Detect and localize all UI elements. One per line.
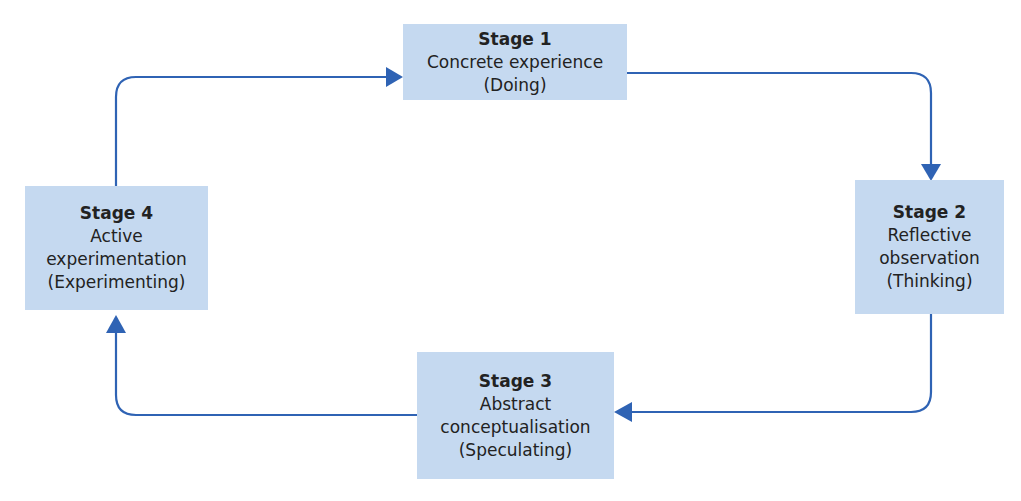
arrow-stage3-to-stage4 — [116, 330, 417, 415]
stage-3-name-line2: conceptualisation — [440, 416, 590, 439]
arrowhead-stage1 — [386, 67, 403, 87]
stage-2-name-line1: Reflective — [888, 224, 972, 247]
stage-2-activity: (Thinking) — [886, 270, 972, 293]
stage-4-title: Stage 4 — [80, 202, 153, 225]
stage-1-activity: (Doing) — [483, 74, 546, 97]
stage-4-name-line1: Active — [90, 225, 143, 248]
arrow-stage4-to-stage1 — [116, 77, 390, 186]
arrow-stage2-to-stage3 — [628, 314, 931, 412]
stage-4-name-line2: experimentation — [46, 248, 187, 271]
stage-4-box: Stage 4 Active experimentation (Experime… — [25, 186, 208, 310]
stage-3-title: Stage 3 — [479, 370, 552, 393]
stage-1-name: Concrete experience — [427, 51, 603, 74]
stage-2-box: Stage 2 Reflective observation (Thinking… — [855, 180, 1004, 314]
stage-3-box: Stage 3 Abstract conceptualisation (Spec… — [417, 352, 614, 479]
arrowhead-stage4 — [106, 315, 126, 333]
stage-1-title: Stage 1 — [478, 28, 551, 51]
stage-4-activity: (Experimenting) — [48, 271, 186, 294]
stage-2-name-line2: observation — [879, 247, 980, 270]
stage-3-name-line1: Abstract — [480, 393, 551, 416]
stage-1-box: Stage 1 Concrete experience (Doing) — [403, 24, 627, 100]
arrow-stage1-to-stage2 — [627, 73, 931, 168]
arrowhead-stage3 — [614, 402, 632, 422]
stage-2-title: Stage 2 — [893, 201, 966, 224]
stage-3-activity: (Speculating) — [459, 439, 573, 462]
arrowhead-stage2 — [921, 164, 941, 181]
